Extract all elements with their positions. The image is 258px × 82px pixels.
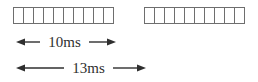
frame-1-slots: [13, 7, 114, 24]
right-arrow-icon: [89, 37, 116, 47]
right-arrow-icon: [113, 63, 146, 73]
frame-period-dimension: 13ms: [16, 60, 146, 76]
frame-duration-label: 10ms: [46, 34, 83, 50]
frame-duration-dimension: 10ms: [16, 34, 116, 50]
time-slot: [234, 7, 245, 24]
frame-timing-diagram: 10ms 13ms: [0, 0, 258, 82]
left-arrow-icon: [16, 63, 64, 73]
left-arrow-icon: [16, 37, 40, 47]
frame-period-label: 13ms: [70, 60, 107, 76]
frame-2-slots: [144, 7, 245, 24]
time-slot: [103, 7, 114, 24]
